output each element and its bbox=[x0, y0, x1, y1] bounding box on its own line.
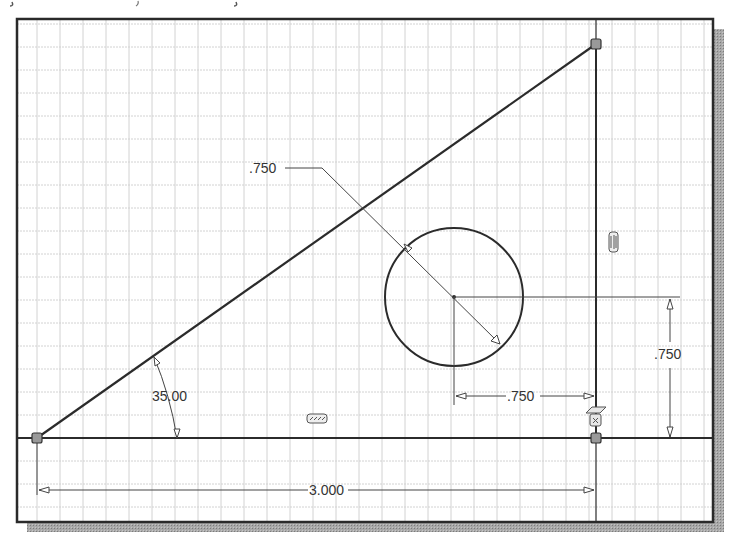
diameter-dimension-label[interactable]: .750 bbox=[249, 160, 276, 176]
horizontal-constraint-icon[interactable] bbox=[307, 414, 327, 423]
top-right-point[interactable] bbox=[591, 39, 601, 49]
clipped-caption-text bbox=[0, 0, 736, 6]
frame-shadow-bottom bbox=[27, 522, 724, 532]
sketch-canvas[interactable]: .750 35.00 .750 .750 bbox=[0, 0, 736, 540]
base-length-label[interactable]: 3.000 bbox=[309, 482, 344, 498]
bottom-right-point[interactable] bbox=[591, 433, 601, 443]
bottom-left-point[interactable] bbox=[32, 433, 42, 443]
vertical-offset-label[interactable]: .750 bbox=[654, 346, 681, 362]
horizontal-offset-label[interactable]: .750 bbox=[507, 388, 534, 404]
frame-shadow bbox=[713, 29, 724, 532]
vertical-constraint-icon[interactable] bbox=[609, 232, 618, 252]
angle-dimension-label[interactable]: 35.00 bbox=[152, 388, 187, 404]
graphics-window bbox=[17, 19, 713, 522]
